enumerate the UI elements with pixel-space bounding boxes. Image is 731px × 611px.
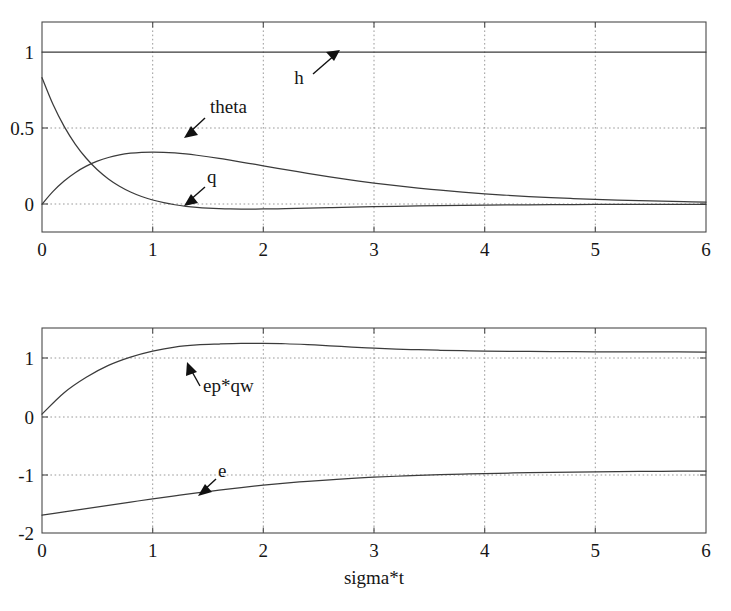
top-xlabel-2: 2 [259,239,269,260]
annotation-q: q [184,166,217,206]
annotation-e-arrow-head [198,484,212,496]
top-xlabel-3: 3 [369,239,379,260]
bottom-panel-gridlines [42,328,706,533]
annotation-ep-qw: ep*qw [186,362,254,396]
top-xlabel-5: 5 [591,239,601,260]
annotation-theta-label: theta [210,96,247,117]
bottom-ylabel-1: 1 [25,348,35,369]
bottom-xlabel-0: 0 [37,540,47,561]
top-ylabel-0: 0 [25,194,35,215]
bottom-ylabel-0: 0 [25,407,35,428]
annotation-e-label: e [218,460,226,481]
top-panel-curves [42,52,706,209]
bottom-xlabel-5: 5 [591,540,601,561]
bottom-xlabel-1: 1 [148,540,158,561]
bottom-xlabel-3: 3 [369,540,379,561]
bottom-xlabel-2: 2 [259,540,269,561]
curve-theta [42,78,706,209]
annotation-q-label: q [207,166,217,187]
bottom-panel: 1 0 -1 -2 0 1 2 3 4 5 6 ep*qw e [18,328,711,588]
top-xlabel-4: 4 [480,239,490,260]
top-ylabel-0.5: 0.5 [10,118,34,139]
figure-container: 1 0.5 0 0 1 2 3 4 5 6 h theta [0,0,731,611]
bottom-xlabel-6: 6 [701,540,711,561]
annotation-h-label: h [294,67,304,88]
top-xlabel-1: 1 [148,239,158,260]
plot-canvas: 1 0.5 0 0 1 2 3 4 5 6 h theta [0,0,731,611]
x-axis-title: sigma*t [344,567,405,588]
top-xlabel-0: 0 [37,239,47,260]
bottom-ylabel--2: -2 [18,523,34,544]
top-panel: 1 0.5 0 0 1 2 3 4 5 6 h theta [10,22,711,260]
annotation-ep-qw-arrow-head [186,362,197,376]
annotation-theta: theta [184,96,247,138]
bottom-ylabel--1: -1 [18,465,34,486]
top-ylabel-1: 1 [25,42,35,63]
top-panel-gridlines [42,22,706,232]
bottom-xlabel-4: 4 [480,540,490,561]
annotation-h: h [294,50,340,88]
annotation-ep-qw-label: ep*qw [203,375,254,396]
top-xlabel-6: 6 [701,239,711,260]
